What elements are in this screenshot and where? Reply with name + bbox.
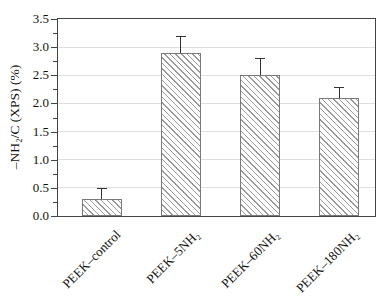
error-bar-cap: [334, 87, 344, 88]
y-major-tick: [51, 19, 57, 20]
y-tick-label: 2.0: [0, 95, 49, 111]
error-bar-line: [260, 58, 261, 75]
y-minor-tick: [53, 33, 57, 34]
error-bar-line: [339, 87, 340, 98]
bar-chart-figure: –NH₂/C (XPS) (%) 0.00.51.01.52.02.53.03.…: [0, 0, 390, 303]
y-minor-tick: [53, 89, 57, 90]
error-bar-cap: [176, 36, 186, 37]
bar: [240, 75, 280, 216]
y-minor-tick: [53, 118, 57, 119]
gridline: [58, 47, 375, 48]
x-tick-label: PEEK–5NH₂: [143, 227, 203, 287]
y-major-tick: [51, 47, 57, 48]
y-tick-label: 0.0: [0, 208, 49, 224]
y-tick-label: 1.5: [0, 124, 49, 140]
y-tick-label: 1.0: [0, 152, 49, 168]
bar: [319, 98, 359, 216]
error-bar-line: [101, 188, 102, 199]
error-bar-line: [180, 36, 181, 53]
y-minor-tick: [53, 146, 57, 147]
error-bar-cap: [97, 188, 107, 189]
gridline: [58, 75, 375, 76]
x-tick-label: PEEK–control: [59, 227, 124, 292]
y-major-tick: [51, 160, 57, 161]
x-tick-label: PEEK–60NH₂: [218, 227, 283, 292]
y-major-tick: [51, 75, 57, 76]
y-major-tick: [51, 216, 57, 217]
y-major-tick: [51, 132, 57, 133]
y-tick-label: 3.5: [0, 11, 49, 27]
bar: [82, 199, 122, 216]
y-major-tick: [51, 188, 57, 189]
y-major-tick: [51, 103, 57, 104]
plot-area: [57, 18, 376, 217]
error-bar-cap: [255, 58, 265, 59]
y-tick-label: 0.5: [0, 180, 49, 196]
y-tick-label: 3.0: [0, 39, 49, 55]
bar: [161, 53, 201, 216]
y-tick-label: 2.5: [0, 67, 49, 83]
y-minor-tick: [53, 61, 57, 62]
x-tick-label: PEEK–180NH₂: [293, 227, 362, 296]
y-minor-tick: [53, 174, 57, 175]
y-minor-tick: [53, 202, 57, 203]
